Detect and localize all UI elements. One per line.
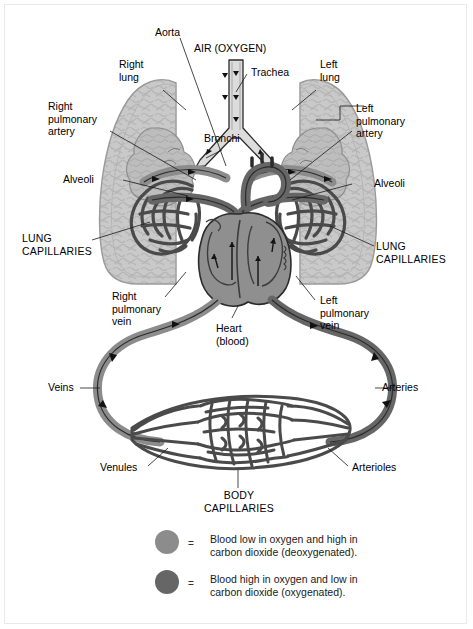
label-aorta: Aorta [155,26,180,39]
label-air-oxygen: AIR (OXYGEN) [194,42,266,55]
legend-equals-2: = [188,578,194,589]
label-right-lung: Right lung [119,58,144,83]
label-body-capillaries: BODY CAPILLARIES [204,489,274,514]
label-venules: Venules [100,461,137,474]
label-lung-capillaries-left: LUNG CAPILLARIES [22,232,92,257]
label-alveoli-right: Alveoli [374,177,405,190]
label-trachea: Trachea [251,66,289,79]
label-heart: Heart (blood) [216,322,249,347]
label-right-pulmonary-artery: Right pulmonary artery [48,100,97,138]
label-lung-capillaries-right: LUNG CAPILLARIES [376,240,446,265]
label-left-lung: Left lung [320,58,340,83]
legend-oxygenated-swatch [155,570,179,594]
label-left-pulmonary-artery: Left pulmonary artery [356,102,405,140]
label-bronchi: Bronchi [204,132,240,145]
legend-oxygenated-text: Blood high in oxygen and low in carbon d… [210,573,358,599]
label-alveoli-left: Alveoli [63,173,94,186]
label-veins: Veins [48,381,74,394]
heart-shape [199,213,291,306]
diagram-figure: Aorta AIR (OXYGEN) Trachea Bronchi Right… [0,0,473,629]
legend-deoxygenated-swatch [155,530,179,554]
body-capillary-bed [132,396,350,468]
legend-equals-1: = [188,538,194,549]
label-arteries: Arteries [382,381,418,394]
label-left-pulmonary-vein: Left pulmonary vein [320,294,369,332]
legend-deoxygenated-text: Blood low in oxygen and high in carbon d… [210,533,358,559]
label-right-pulmonary-vein: Right pulmonary vein [112,290,161,328]
label-arterioles: Arterioles [352,461,396,474]
